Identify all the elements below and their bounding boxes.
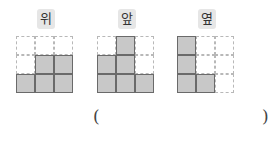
filled-cell bbox=[116, 36, 135, 55]
filled-cell bbox=[116, 74, 135, 93]
filled-cell bbox=[177, 55, 196, 74]
filled-cell bbox=[116, 55, 135, 74]
grid-top bbox=[16, 36, 73, 93]
answer-open-paren: ( bbox=[93, 106, 100, 126]
empty-cell bbox=[135, 36, 154, 55]
grid-side bbox=[177, 36, 234, 93]
empty-cell bbox=[54, 36, 73, 55]
empty-cell bbox=[215, 55, 234, 74]
empty-cell bbox=[196, 55, 215, 74]
empty-cell bbox=[35, 36, 54, 55]
filled-cell bbox=[177, 74, 196, 93]
empty-cell bbox=[16, 55, 35, 74]
filled-cell bbox=[135, 74, 154, 93]
filled-cell bbox=[97, 74, 116, 93]
grid-front bbox=[97, 36, 154, 93]
filled-cell bbox=[54, 55, 73, 74]
filled-cell bbox=[35, 74, 54, 93]
view-label-top: 위 bbox=[37, 9, 55, 29]
empty-cell bbox=[215, 36, 234, 55]
view-label-side: 옆 bbox=[198, 9, 216, 29]
filled-cell bbox=[196, 74, 215, 93]
filled-cell bbox=[177, 36, 196, 55]
empty-cell bbox=[16, 36, 35, 55]
empty-cell bbox=[215, 74, 234, 93]
answer-close-paren: ) bbox=[262, 106, 269, 126]
answer-blank[interactable] bbox=[105, 108, 255, 128]
filled-cell bbox=[97, 55, 116, 74]
filled-cell bbox=[35, 55, 54, 74]
empty-cell bbox=[97, 36, 116, 55]
filled-cell bbox=[54, 74, 73, 93]
view-label-front: 앞 bbox=[118, 9, 136, 29]
filled-cell bbox=[16, 74, 35, 93]
empty-cell bbox=[196, 36, 215, 55]
empty-cell bbox=[135, 55, 154, 74]
